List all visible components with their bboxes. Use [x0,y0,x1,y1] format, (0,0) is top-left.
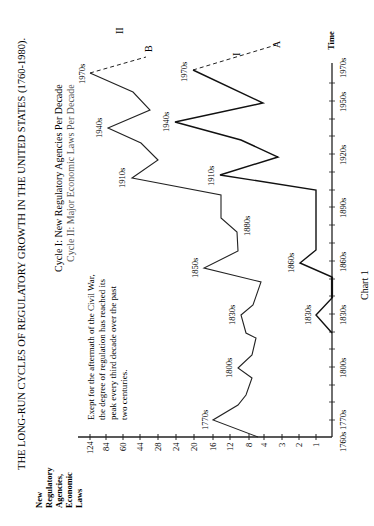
svg-text:1940s: 1940s [161,112,171,132]
svg-text:8: 8 [244,443,254,447]
svg-text:24: 24 [171,442,181,451]
cycle-1-projection [193,45,276,70]
cycle-1-letter-marker: A [271,40,282,48]
svg-text:3: 3 [277,443,287,447]
svg-text:1890s: 1890s [338,198,348,218]
chart-canvas: THE LONG-RUN CYCLES OF REGULATORY GROWTH… [0,0,374,526]
time-axis-tick-labels: 1760s 1770s 1800s 1830s 1860s 1890s 1920… [338,58,348,452]
cycle-1-roman-marker: I [231,53,242,56]
svg-text:60: 60 [118,443,128,452]
cycle-1-peak-labels: 1830s 1860s 1910s 1940s 1970s [161,62,313,325]
svg-text:84: 84 [101,442,111,451]
legend-cycle-1: Cycle I: New Regulatory Agencies Per Dec… [53,84,64,272]
svg-text:1860s: 1860s [338,252,348,272]
svg-text:Agencies,: Agencies, [54,474,64,508]
svg-text:1: 1 [311,443,321,447]
cycle-1-line [175,70,332,333]
svg-text:1860s: 1860s [286,253,296,273]
svg-text:1770s: 1770s [338,410,348,430]
svg-text:1800s: 1800s [224,358,234,378]
svg-text:1760s: 1760s [338,432,348,452]
svg-text:124: 124 [85,441,95,455]
svg-text:1950s: 1950s [338,92,348,112]
value-axis-tick-labels: 124 84 60 44 28 24 20 16 12 8 4 3 2 1 [85,441,321,455]
chart-caption: Chart 1 [359,270,370,300]
svg-text:New: New [34,491,44,508]
svg-text:1940s: 1940s [94,118,104,138]
svg-text:1970s: 1970s [179,62,189,82]
svg-text:1830s: 1830s [303,305,313,325]
svg-text:1830s: 1830s [338,305,348,325]
svg-text:1970s: 1970s [338,58,348,78]
svg-text:peak every third decade over t: peak every third decade over the past [108,286,118,420]
svg-text:1910s: 1910s [206,166,216,186]
svg-text:Economic: Economic [64,472,74,508]
svg-text:two centuries.: two centuries. [119,370,129,420]
cycle-2-letter-marker: B [143,45,154,52]
svg-text:28: 28 [153,443,163,452]
svg-text:12: 12 [225,443,235,452]
svg-text:1920s: 1920s [338,145,348,165]
svg-text:1830s: 1830s [227,305,237,325]
cycle-2-projection [90,57,146,73]
svg-text:1970s: 1970s [77,64,87,84]
y-axis-label: New Regulatory Agencies, Economic Laws [34,467,84,508]
cycle-2-roman-marker: II [114,27,125,34]
svg-text:1850s: 1850s [190,258,200,278]
svg-text:1910s: 1910s [117,168,127,188]
svg-text:2: 2 [294,443,304,447]
legend-cycle-2: Cycle II: Major Economic Laws Per Decade [65,84,76,262]
svg-text:4: 4 [259,442,269,447]
svg-text:1770s: 1770s [200,410,210,430]
svg-text:Laws: Laws [74,488,84,508]
svg-text:Regulatory: Regulatory [44,467,54,508]
svg-text:44: 44 [135,442,145,451]
svg-text:the degree of regulation has r: the degree of regulation has reached its [97,279,107,420]
svg-text:16: 16 [208,443,218,452]
annotation-note: Exept for the aftermath of the Civil War… [86,274,129,420]
svg-text:1880s: 1880s [242,216,252,236]
svg-text:20: 20 [189,443,199,452]
chart-title: THE LONG-RUN CYCLES OF REGULATORY GROWTH… [16,38,28,470]
svg-text:Exept for the aftermath of the: Exept for the aftermath of the Civil War… [86,274,96,420]
time-axis-label: Time [326,31,336,50]
svg-text:1800s: 1800s [338,358,348,378]
